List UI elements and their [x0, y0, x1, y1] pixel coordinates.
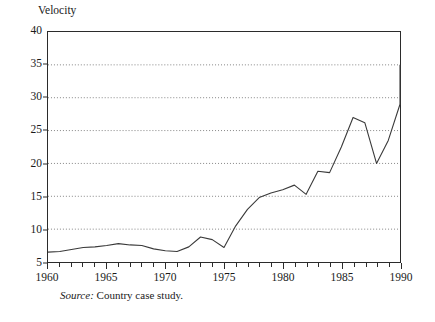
x-tick-label: 1985: [331, 271, 354, 284]
x-tick-label: 1980: [272, 271, 295, 284]
source-note: Source: Country case study.: [60, 289, 183, 302]
x-tick-mark: [59, 263, 60, 267]
x-tick-mark: [248, 263, 249, 267]
x-tick-mark: [354, 263, 355, 267]
velocity-series-line: [48, 32, 400, 262]
x-tick-mark: [259, 263, 260, 267]
x-tick-mark: [165, 263, 166, 269]
series-line: [48, 65, 400, 252]
x-tick-mark: [366, 263, 367, 267]
y-tick-label: 25: [16, 125, 42, 137]
x-tick-mark: [283, 263, 284, 269]
plot-area: [47, 31, 401, 263]
x-tick-mark: [177, 263, 178, 267]
y-tick-label: 35: [16, 58, 42, 70]
x-tick-mark: [318, 263, 319, 267]
y-axis-tick-labels: 403530252015105: [12, 31, 42, 263]
x-tick-label: 1975: [213, 271, 236, 284]
x-tick-mark: [200, 263, 201, 267]
x-tick-mark: [389, 263, 390, 267]
x-axis-tick-marks: [47, 263, 401, 270]
y-tick-label: 40: [16, 25, 42, 37]
x-tick-mark: [236, 263, 237, 267]
velocity-line-chart-figure: Velocity 403530252015105 196019651970197…: [0, 0, 435, 322]
x-tick-mark: [153, 263, 154, 267]
x-tick-mark: [401, 263, 402, 269]
y-axis-title: Velocity: [38, 4, 76, 17]
x-tick-mark: [377, 263, 378, 267]
x-tick-mark: [189, 263, 190, 267]
x-tick-mark: [130, 263, 131, 267]
x-tick-mark: [47, 263, 48, 269]
x-axis-tick-labels: 1960196519701975198019851990: [47, 271, 401, 287]
y-tick-label: 15: [16, 191, 42, 203]
x-tick-label: 1965: [95, 271, 118, 284]
x-tick-mark: [212, 263, 213, 267]
x-tick-mark: [82, 263, 83, 267]
x-tick-mark: [224, 263, 225, 269]
y-tick-label: 5: [16, 257, 42, 269]
x-tick-label: 1970: [154, 271, 177, 284]
source-label: Source:: [60, 289, 94, 301]
x-tick-mark: [330, 263, 331, 267]
source-text: Country case study.: [94, 289, 183, 301]
x-tick-label: 1990: [390, 271, 413, 284]
y-tick-label: 30: [16, 92, 42, 104]
x-tick-mark: [94, 263, 95, 267]
x-tick-mark: [118, 263, 119, 267]
x-tick-mark: [307, 263, 308, 267]
x-tick-mark: [106, 263, 107, 269]
x-tick-mark: [271, 263, 272, 267]
x-tick-label: 1960: [36, 271, 59, 284]
y-tick-label: 20: [16, 158, 42, 170]
x-tick-mark: [141, 263, 142, 267]
x-tick-mark: [295, 263, 296, 267]
x-tick-mark: [342, 263, 343, 269]
y-tick-label: 10: [16, 224, 42, 236]
x-tick-mark: [71, 263, 72, 267]
